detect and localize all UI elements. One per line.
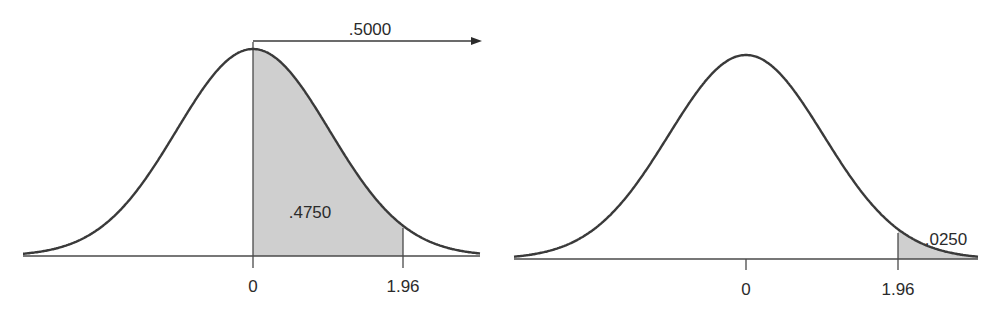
left-tick-z: 1.96 (386, 277, 419, 296)
right-chart: .0250 0 1.96 (514, 55, 978, 299)
left-normal-curve (23, 49, 480, 254)
arrow-right-icon (471, 37, 482, 45)
right-normal-curve (514, 55, 978, 257)
right-tick-zero: 0 (741, 280, 750, 299)
right-area-label: .0250 (925, 230, 968, 249)
figure: .5000 .4750 0 1.96 .0250 0 1.96 (0, 0, 990, 319)
right-tick-z: 1.96 (881, 280, 914, 299)
left-arrow-label: .5000 (349, 20, 392, 39)
left-chart: .5000 .4750 0 1.96 (23, 20, 482, 296)
left-shaded-area (253, 49, 403, 256)
left-area-label: .4750 (289, 203, 332, 222)
left-tick-zero: 0 (248, 277, 257, 296)
